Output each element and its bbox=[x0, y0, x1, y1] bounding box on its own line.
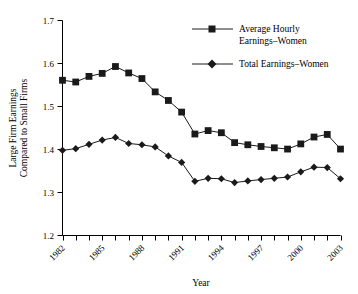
y-tick-label: 1.5 bbox=[43, 102, 55, 112]
y-tick-label: 1.7 bbox=[43, 16, 55, 26]
x-axis-title: Year bbox=[192, 278, 210, 288]
data-point-diamond bbox=[284, 173, 291, 180]
data-point-diamond bbox=[59, 147, 66, 154]
x-tick-label: 1994 bbox=[206, 242, 226, 262]
data-point-square bbox=[139, 75, 146, 82]
x-tick-label: 1991 bbox=[166, 243, 186, 263]
data-point-square bbox=[231, 139, 238, 146]
data-point-square bbox=[191, 131, 198, 138]
data-point-square bbox=[205, 127, 212, 134]
data-point-diamond bbox=[297, 168, 304, 175]
data-point-square bbox=[324, 131, 331, 138]
data-point-diamond bbox=[178, 159, 185, 166]
data-point-square bbox=[72, 79, 79, 86]
data-point-diamond bbox=[112, 134, 119, 141]
y-axis-ticks bbox=[58, 21, 63, 236]
x-tick-label: 1985 bbox=[87, 242, 107, 262]
data-point-square bbox=[86, 73, 93, 80]
legend-label-2-line1: Total Earnings–Women bbox=[239, 59, 329, 69]
data-point-diamond bbox=[257, 176, 264, 183]
data-point-diamond bbox=[165, 152, 172, 159]
y-tick-label: 1.4 bbox=[43, 145, 55, 155]
data-point-diamond bbox=[231, 179, 238, 186]
chart-figure: 1.7 1.6 1.5 1.4 1.3 1.2 1982198519881991… bbox=[0, 0, 358, 294]
x-axis-tick-labels: 19821985198819911994199720002003 bbox=[47, 242, 345, 262]
y-axis-title-line2: Compared to Small Firms bbox=[19, 78, 29, 177]
line-chart-canvas: 1.7 1.6 1.5 1.4 1.3 1.2 1982198519881991… bbox=[0, 0, 358, 294]
data-point-diamond bbox=[72, 145, 79, 152]
y-tick-label: 1.2 bbox=[43, 231, 54, 241]
data-point-square bbox=[59, 77, 66, 84]
y-tick-label: 1.3 bbox=[43, 188, 55, 198]
legend-marker-square bbox=[209, 26, 216, 33]
data-point-square bbox=[244, 141, 251, 148]
data-point-square bbox=[125, 70, 132, 77]
data-point-diamond bbox=[125, 140, 132, 147]
data-point-diamond bbox=[218, 175, 225, 182]
data-point-square bbox=[297, 141, 304, 148]
data-point-square bbox=[152, 88, 159, 95]
data-point-square bbox=[218, 129, 225, 136]
data-point-square bbox=[112, 63, 119, 70]
data-point-diamond bbox=[244, 177, 251, 184]
data-point-square bbox=[165, 97, 172, 104]
y-tick-label: 1.6 bbox=[43, 59, 55, 69]
series-line bbox=[63, 67, 341, 150]
legend-label-1-line1: Average Hourly bbox=[239, 24, 300, 34]
x-tick-label: 1982 bbox=[47, 243, 67, 263]
data-point-diamond bbox=[271, 175, 278, 182]
data-point-square bbox=[178, 109, 185, 116]
legend-marker-diamond bbox=[208, 60, 217, 69]
x-tick-label: 1988 bbox=[127, 242, 147, 262]
x-tick-label: 2000 bbox=[285, 242, 305, 262]
data-point-diamond bbox=[85, 141, 92, 148]
chart-axes bbox=[63, 21, 341, 236]
data-point-diamond bbox=[191, 178, 198, 185]
data-point-diamond bbox=[99, 136, 106, 143]
data-point-diamond bbox=[152, 143, 159, 150]
x-axis-ticks bbox=[64, 236, 342, 241]
data-point-diamond bbox=[205, 175, 212, 182]
y-axis-tick-labels: 1.7 1.6 1.5 1.4 1.3 1.2 bbox=[43, 16, 55, 241]
series-layer bbox=[59, 63, 344, 186]
data-point-square bbox=[284, 146, 291, 153]
y-axis-title-line1: Large Firm Earnings bbox=[8, 88, 18, 167]
data-point-square bbox=[99, 70, 106, 77]
data-point-diamond bbox=[138, 141, 145, 148]
data-point-square bbox=[311, 134, 318, 141]
data-point-square bbox=[337, 146, 344, 153]
data-point-diamond bbox=[310, 164, 317, 171]
data-point-square bbox=[258, 143, 265, 150]
x-tick-label: 2003 bbox=[325, 242, 345, 262]
x-tick-label: 1997 bbox=[246, 242, 266, 262]
legend-label-1-line2: Earnings–Women bbox=[239, 36, 307, 46]
data-point-square bbox=[271, 144, 278, 151]
chart-legend: Average Hourly Earnings–Women Total Earn… bbox=[192, 24, 329, 69]
